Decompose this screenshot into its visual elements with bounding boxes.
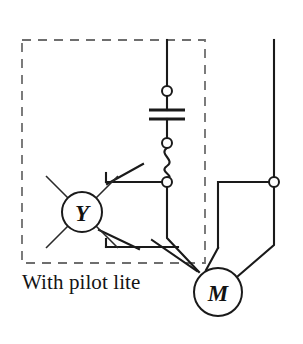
terminal-contact-left bbox=[162, 177, 172, 187]
motor-label: M bbox=[207, 281, 230, 306]
terminal-upper bbox=[162, 86, 172, 96]
wire-right-to-motor bbox=[238, 187, 274, 276]
lamp-ray-lower-left bbox=[46, 226, 68, 248]
thermal-overload-element bbox=[164, 148, 169, 178]
wire-riser-into-motor bbox=[206, 248, 218, 270]
wire-center-down-to-motor bbox=[167, 187, 199, 272]
lamp-ray-upper-left bbox=[46, 176, 68, 198]
pilot-lamp-label: Y bbox=[75, 201, 91, 226]
wire-right-rail bbox=[218, 182, 269, 248]
circuit-diagram-figure: Y M With pilot lite bbox=[0, 0, 303, 344]
figure-caption: With pilot lite bbox=[22, 270, 140, 295]
terminal-capacitor-lower bbox=[162, 138, 172, 148]
terminal-right-line bbox=[269, 177, 279, 187]
pilot-lite-enclosure bbox=[22, 40, 205, 263]
